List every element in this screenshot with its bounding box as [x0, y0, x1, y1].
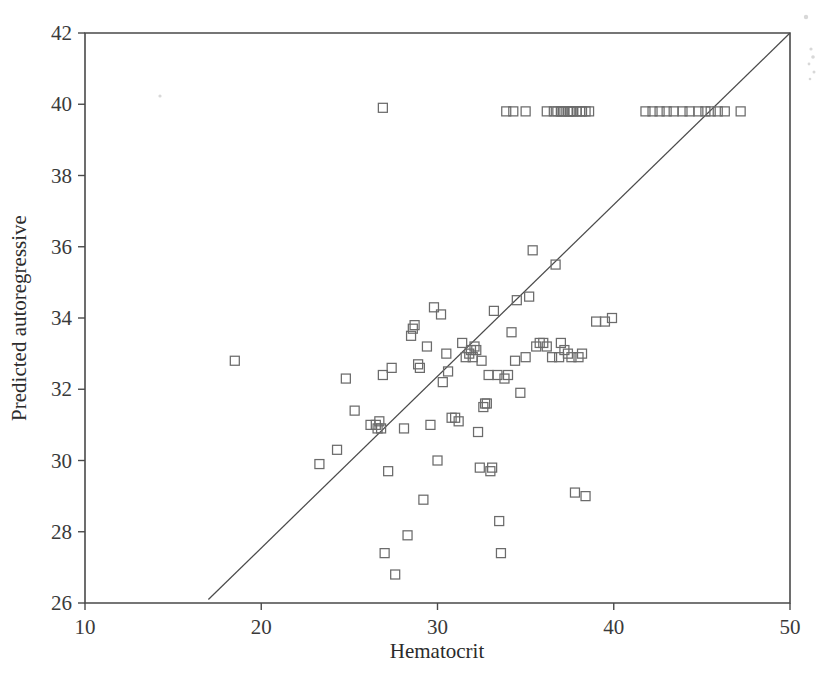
data-point [419, 495, 428, 504]
data-point [451, 413, 460, 422]
scatter-markers [230, 103, 745, 579]
data-point [563, 349, 572, 358]
x-tick-label-10: 10 [75, 615, 96, 639]
y-tick-label-38: 38 [51, 164, 72, 188]
y-tick-label-28: 28 [51, 520, 72, 544]
y-axis-ticks [78, 33, 85, 603]
data-point [507, 328, 516, 337]
data-point [422, 342, 431, 351]
data-point [512, 296, 521, 305]
data-point [525, 292, 534, 301]
y-axis-tick-labels: 262830323436384042 [51, 21, 73, 615]
data-point [442, 349, 451, 358]
data-point [475, 463, 484, 472]
data-point [333, 445, 342, 454]
data-point [528, 246, 537, 255]
data-point [378, 103, 387, 112]
data-point [578, 349, 587, 358]
data-point [495, 517, 504, 526]
data-point [341, 374, 350, 383]
x-axis-ticks [85, 603, 790, 610]
data-point [387, 363, 396, 372]
data-point [570, 488, 579, 497]
chart-canvas: 1020304050 262830323436384042 Hematocrit… [0, 0, 837, 676]
plot-frame [85, 33, 790, 603]
y-tick-label-34: 34 [51, 306, 73, 330]
y-tick-label-42: 42 [51, 21, 72, 45]
y-axis-title: Predicted autoregressive [7, 215, 31, 421]
y-tick-label-36: 36 [51, 235, 72, 259]
data-point [521, 107, 530, 116]
x-tick-label-30: 30 [427, 615, 448, 639]
data-point [400, 424, 409, 433]
x-tick-label-20: 20 [251, 615, 272, 639]
data-point [230, 356, 239, 365]
x-axis-title: Hematocrit [390, 639, 485, 663]
reference-line [208, 33, 790, 599]
data-point [516, 388, 525, 397]
data-point [438, 378, 447, 387]
y-tick-label-30: 30 [51, 449, 72, 473]
data-point [458, 338, 467, 347]
scan-speckle-artifacts [158, 15, 815, 98]
data-point [477, 356, 486, 365]
y-tick-label-32: 32 [51, 377, 72, 401]
data-point [581, 492, 590, 501]
data-point [426, 420, 435, 429]
data-point [504, 371, 513, 380]
data-point [489, 306, 498, 315]
y-tick-label-40: 40 [51, 92, 72, 116]
data-point [581, 107, 590, 116]
data-point [391, 570, 400, 579]
data-point [433, 456, 442, 465]
data-point [384, 467, 393, 476]
data-point [496, 549, 505, 558]
y-tick-label-26: 26 [51, 591, 72, 615]
data-point [592, 317, 601, 326]
data-point [484, 371, 493, 380]
data-point [378, 371, 387, 380]
data-point [315, 460, 324, 469]
data-point [736, 107, 745, 116]
data-point [511, 356, 520, 365]
x-tick-label-40: 40 [603, 615, 624, 639]
x-axis-tick-labels: 1020304050 [75, 615, 801, 639]
data-point [474, 428, 483, 437]
x-tick-label-50: 50 [780, 615, 801, 639]
data-point [380, 549, 389, 558]
data-point [521, 353, 530, 362]
data-point [350, 406, 359, 415]
data-point [403, 531, 412, 540]
identity-reference-line [208, 33, 790, 599]
scatter-plot-figure: 1020304050 262830323436384042 Hematocrit… [0, 0, 837, 676]
